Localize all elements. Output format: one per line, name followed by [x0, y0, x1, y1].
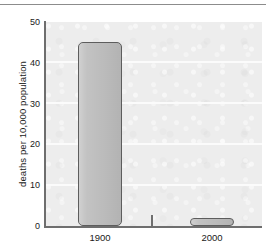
- y-axis-tick-labels: 50 40 30 20 10 0: [0, 0, 40, 252]
- x-axis-line: [44, 226, 262, 228]
- bar-highlight: [191, 219, 233, 225]
- y-tick-label-50: 50: [2, 17, 40, 28]
- x-axis-minor-tick: [151, 215, 153, 226]
- x-tick-label-2000: 2000: [182, 232, 242, 244]
- plot-area: [45, 22, 262, 226]
- y-tick-label-40: 40: [2, 58, 40, 69]
- bar-chart-figure: deaths per 10,000 population 50 40 30 20…: [0, 0, 266, 252]
- y-axis-line: [44, 21, 46, 227]
- bar-highlight: [79, 43, 121, 225]
- y-tick-label-10: 10: [2, 180, 40, 191]
- y-tick-label-0: 0: [2, 221, 40, 232]
- y-tick-label-20: 20: [2, 139, 40, 150]
- x-tick-label-1900: 1900: [70, 232, 130, 244]
- y-tick-label-30: 30: [2, 99, 40, 110]
- bar-1900[interactable]: [78, 42, 122, 226]
- bar-2000[interactable]: [190, 218, 234, 226]
